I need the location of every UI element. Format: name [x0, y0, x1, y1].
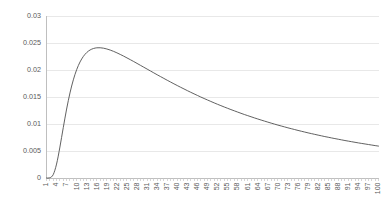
x-tick-label: 73 — [284, 182, 291, 190]
x-tick-label: 1 — [42, 182, 49, 186]
x-tick-label: 34 — [153, 182, 160, 190]
x-tick-label: 100 — [374, 182, 381, 194]
x-tick-label: 49 — [203, 182, 210, 190]
x-tick-label: 79 — [304, 182, 311, 190]
x-tick-label: 25 — [123, 182, 130, 190]
x-tick-label: 31 — [143, 182, 150, 190]
line-chart: 00.0050.010.0150.020.0250.03 14710131619… — [0, 0, 387, 212]
x-tick-label: 97 — [364, 182, 371, 190]
x-tick-label: 55 — [223, 182, 230, 190]
x-tick-label: 67 — [264, 182, 271, 190]
chart-container: 00.0050.010.0150.020.0250.03 14710131619… — [0, 0, 387, 212]
x-tick-label: 43 — [183, 182, 190, 190]
x-tick-label: 94 — [354, 182, 361, 190]
x-tick-label: 88 — [334, 182, 341, 190]
y-tick-label: 0.03 — [27, 11, 41, 20]
x-tick-label: 52 — [213, 182, 220, 190]
x-tick-label: 19 — [103, 182, 110, 190]
x-tick-label: 4 — [52, 182, 59, 186]
y-axis-tick-labels: 00.0050.010.0150.020.0250.03 — [23, 11, 41, 182]
y-tick-label: 0.015 — [23, 92, 41, 101]
series-line-distribution — [47, 48, 379, 178]
y-tick-label: 0.02 — [27, 65, 41, 74]
x-tick-label: 61 — [244, 182, 251, 190]
series-group — [47, 48, 379, 178]
y-tick-label: 0.005 — [23, 146, 41, 155]
y-tick-label: 0 — [37, 173, 41, 182]
x-axis-tick-labels: 1471013161922252831343740434649525558616… — [42, 182, 381, 194]
x-tick-label: 40 — [173, 182, 180, 190]
x-tick-label: 37 — [163, 182, 170, 190]
x-tick-label: 82 — [314, 182, 321, 190]
x-tick-label: 58 — [233, 182, 240, 190]
x-tick-label: 28 — [133, 182, 140, 190]
x-tick-label: 7 — [62, 182, 69, 186]
x-tick-label: 16 — [93, 182, 100, 190]
x-tick-label: 70 — [274, 182, 281, 190]
x-tick-label: 91 — [344, 182, 351, 190]
x-tick-label: 13 — [83, 182, 90, 190]
x-tick-label: 22 — [113, 182, 120, 190]
x-tick-label: 76 — [294, 182, 301, 190]
y-tick-label: 0.01 — [27, 119, 41, 128]
x-tick-label: 46 — [193, 182, 200, 190]
gridlines-group — [47, 16, 379, 151]
x-tick-label: 85 — [324, 182, 331, 190]
x-tick-label: 10 — [73, 182, 80, 190]
x-tick-label: 64 — [254, 182, 261, 190]
y-tick-label: 0.025 — [23, 38, 41, 47]
